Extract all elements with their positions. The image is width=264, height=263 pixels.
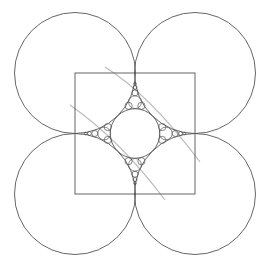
background: [0, 0, 264, 263]
apollonian-diagram: [0, 0, 264, 263]
